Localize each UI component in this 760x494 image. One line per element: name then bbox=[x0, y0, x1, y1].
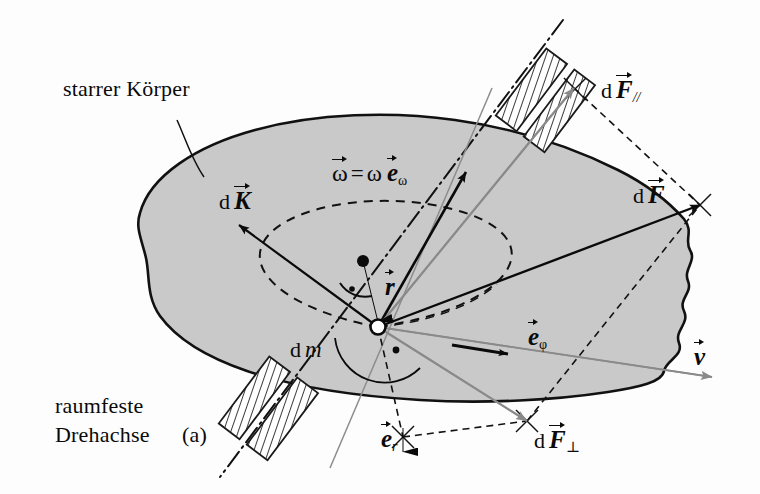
label-e-phi: e φ bbox=[528, 322, 547, 352]
physics-diagram-figure: starrer Körper raumfeste Drehachse (a) ω… bbox=[0, 0, 760, 494]
rigid-body-shape bbox=[138, 115, 692, 402]
label-axis-line1: raumfeste bbox=[55, 395, 144, 417]
vector-arrow-icon bbox=[528, 318, 538, 326]
label-r: r bbox=[385, 272, 395, 299]
vector-arrow-icon bbox=[549, 421, 565, 429]
e-phi-vector-symbol: e bbox=[528, 322, 539, 349]
axis-anchor-point bbox=[357, 255, 369, 267]
dK-vector-symbol: K bbox=[234, 186, 251, 213]
omega-vector-symbol: ω bbox=[332, 159, 348, 185]
vector-arrow-icon bbox=[387, 154, 397, 162]
label-omega-equation: ω =ω e ω bbox=[332, 158, 407, 188]
e-r-vector-symbol: e bbox=[381, 424, 392, 451]
vector-arrow-icon bbox=[648, 176, 664, 184]
label-e-r: e r bbox=[381, 424, 398, 454]
label-dK: d K bbox=[219, 186, 251, 213]
vector-arrow-icon bbox=[234, 182, 250, 190]
diagram-canvas bbox=[0, 0, 760, 494]
label-rigid-body: starrer Körper bbox=[63, 78, 190, 100]
vector-arrow-icon bbox=[616, 71, 632, 79]
label-dm: dm bbox=[290, 338, 322, 361]
vector-arrow-icon bbox=[332, 155, 347, 163]
label-v: v bbox=[694, 342, 705, 369]
dF-parallel-vector-symbol: F bbox=[616, 75, 633, 102]
label-axis-marker: (a) bbox=[182, 424, 207, 446]
mass-element-dm-point bbox=[371, 320, 386, 335]
dF-vector-symbol: F bbox=[648, 180, 665, 207]
label-axis-line2: Drehachse bbox=[55, 424, 150, 446]
vector-arrow-icon bbox=[694, 338, 704, 346]
r-vector-symbol: r bbox=[385, 272, 395, 299]
omega-unit-vector-symbol: e bbox=[387, 158, 398, 185]
vector-arrow-icon bbox=[381, 420, 391, 428]
vector-arrow-icon bbox=[385, 268, 394, 276]
label-dF-perpendicular: d F ⊥ bbox=[534, 425, 580, 455]
dF-perpendicular-vector-symbol: F bbox=[549, 425, 566, 452]
label-dF: d F bbox=[633, 180, 665, 207]
v-vector-symbol: v bbox=[694, 342, 705, 369]
label-dF-parallel: d F // bbox=[601, 75, 640, 105]
